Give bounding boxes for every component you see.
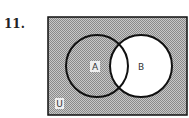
venn-diagram: A B U bbox=[0, 0, 189, 118]
label-b: B bbox=[138, 62, 144, 72]
label-a: A bbox=[92, 62, 99, 72]
label-u: U bbox=[56, 99, 63, 109]
